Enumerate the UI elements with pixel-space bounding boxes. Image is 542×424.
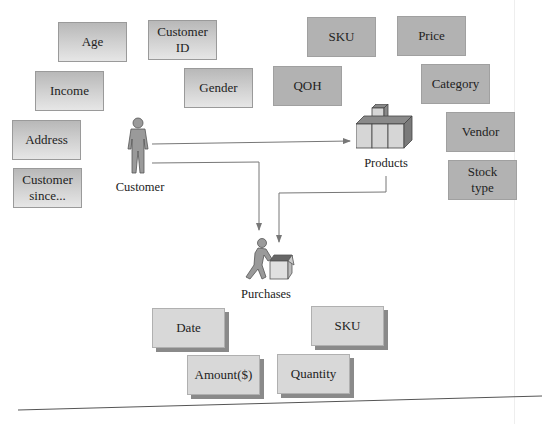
products-entity-label: Products	[356, 156, 416, 171]
product-attr-price: Price	[397, 16, 466, 56]
product-attr-sku: SKU	[307, 17, 376, 57]
customer-entity-label: Customer	[110, 180, 170, 195]
person-with-box-icon	[236, 237, 296, 285]
customer-attr-customer-since: Customer since...	[13, 168, 82, 208]
person-icon	[124, 117, 152, 175]
purchase-attr-amount: Amount($)	[187, 355, 260, 395]
product-attr-stock-type: Stock type	[448, 160, 517, 200]
customer-attr-gender: Gender	[184, 68, 253, 108]
product-attr-qoh: QOH	[273, 66, 342, 106]
customer-attr-age: Age	[58, 22, 127, 62]
purchase-attr-sku: SKU	[311, 306, 384, 346]
purchase-attr-quantity: Quantity	[277, 354, 350, 394]
customer-attr-address: Address	[12, 120, 81, 160]
product-attr-category: Category	[421, 64, 490, 104]
customer-attr-customer-id: Customer ID	[148, 20, 217, 60]
product-attr-vendor: Vendor	[446, 112, 515, 152]
stacked-boxes-icon	[356, 104, 416, 152]
purchases-entity-label: Purchases	[236, 287, 296, 302]
customer-attr-income: Income	[35, 71, 104, 111]
purchase-attr-date: Date	[152, 308, 225, 348]
